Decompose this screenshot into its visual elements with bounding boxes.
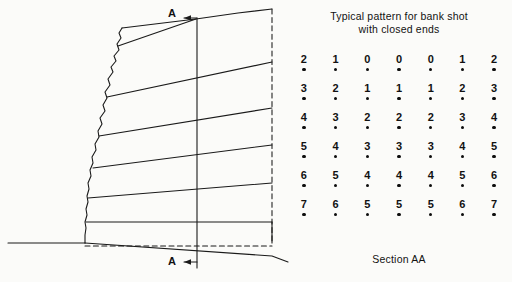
blasthole-dot-icon: [366, 184, 369, 187]
blasthole-cell: 1: [428, 83, 434, 100]
blasthole-cell: 5: [396, 199, 402, 216]
bench-cross-section-drawing: [0, 0, 290, 282]
delay-period-number: 6: [491, 170, 497, 181]
blasthole-cell: 3: [364, 141, 370, 158]
blasthole-cell: 3: [459, 112, 465, 129]
delay-period-number: 4: [301, 112, 307, 123]
blasthole-dot-icon: [461, 184, 464, 187]
blasthole-dot-icon: [492, 126, 495, 129]
blasthole-dot-icon: [302, 126, 305, 129]
delay-period-number: 2: [428, 112, 434, 123]
delay-period-number: 2: [333, 83, 339, 94]
delay-period-number: 4: [491, 112, 497, 123]
blasthole-cell: 2: [396, 112, 402, 129]
delay-period-number: 5: [459, 170, 465, 181]
blasthole-cell: 3: [396, 141, 402, 158]
delay-period-number: 3: [459, 112, 465, 123]
blasthole-dot-icon: [461, 126, 464, 129]
blasthole-dot-icon: [366, 97, 369, 100]
blasthole-dot-icon: [461, 97, 464, 100]
blasthole-dot-icon: [334, 184, 337, 187]
blasthole-dot-icon: [429, 155, 432, 158]
blasthole-cell: 2: [459, 83, 465, 100]
delay-period-number: 7: [301, 199, 307, 210]
blasthole-cell: 5: [428, 199, 434, 216]
delay-period-number: 4: [459, 141, 465, 152]
blasthole-dot-icon: [302, 155, 305, 158]
blasthole-cell: 2: [333, 83, 339, 100]
delay-period-number: 2: [491, 54, 497, 65]
delay-period-number: 2: [459, 83, 465, 94]
fan-hole-line-3: [99, 108, 272, 136]
blasthole-dot-icon: [334, 97, 337, 100]
blasthole-dot-icon: [397, 97, 400, 100]
blasthole-dot-icon: [302, 97, 305, 100]
blasthole-cell: 6: [459, 199, 465, 216]
delay-period-number: 4: [428, 170, 434, 181]
blasthole-cell: 2: [428, 112, 434, 129]
blasthole-dot-icon: [302, 68, 305, 71]
delay-period-number: 0: [396, 54, 402, 65]
blasthole-dot-icon: [366, 126, 369, 129]
pattern-title-line-2: with closed ends: [286, 23, 512, 36]
delay-period-number: 5: [396, 199, 402, 210]
blasthole-dot-icon: [429, 97, 432, 100]
blasthole-dot-icon: [366, 155, 369, 158]
blasthole-cell: 5: [491, 141, 497, 158]
fan-hole-line-2: [107, 62, 272, 97]
delay-period-number: 5: [333, 170, 339, 181]
blasthole-cell: 4: [459, 141, 465, 158]
blasthole-cell: 0: [364, 54, 370, 71]
delay-period-number: 2: [301, 54, 307, 65]
blasthole-cell: 4: [364, 170, 370, 187]
section-aa-panel: Typical pattern for bank shot with close…: [286, 0, 512, 282]
delay-period-number: 2: [396, 112, 402, 123]
blasthole-dot-icon: [397, 155, 400, 158]
delay-period-number: 5: [301, 141, 307, 152]
delay-period-number: 2: [364, 112, 370, 123]
delay-period-number: 0: [364, 54, 370, 65]
fan-hole-line-4: [93, 145, 272, 168]
blasthole-cell: 3: [333, 112, 339, 129]
delay-period-number: 5: [428, 199, 434, 210]
blasthole-cell: 4: [301, 112, 307, 129]
blasthole-dot-icon: [461, 68, 464, 71]
blasthole-dot-icon: [492, 184, 495, 187]
blasthole-dot-icon: [366, 68, 369, 71]
blasthole-cell: 4: [491, 112, 497, 129]
section-arrow-bottom-head: [184, 259, 191, 265]
blasthole-dot-icon: [429, 213, 432, 216]
delay-period-number: 4: [364, 170, 370, 181]
blasthole-dot-icon: [302, 184, 305, 187]
section-label-a-top: A: [168, 8, 176, 19]
blasting-pattern-figure: A A Typical pattern for bank shot with c…: [0, 0, 512, 282]
blasthole-cell: 6: [301, 170, 307, 187]
delay-period-number: 6: [333, 199, 339, 210]
blasthole-cell: 7: [301, 199, 307, 216]
delay-period-number: 4: [333, 141, 339, 152]
delay-period-number: 3: [396, 141, 402, 152]
blasthole-cell: 4: [333, 141, 339, 158]
blasthole-cell: 1: [333, 54, 339, 71]
delay-period-number: 1: [396, 83, 402, 94]
delay-period-number: 3: [428, 141, 434, 152]
blasthole-cell: 1: [364, 83, 370, 100]
blasthole-cell: 1: [459, 54, 465, 71]
pattern-title-line-1: Typical pattern for bank shot: [286, 10, 512, 23]
fan-hole-line-5: [88, 183, 272, 198]
delay-pattern-grid: 2100012321112343222345433345654445676555…: [288, 54, 510, 228]
blasthole-cell: 0: [428, 54, 434, 71]
delay-period-number: 5: [491, 141, 497, 152]
delay-period-number: 3: [491, 83, 497, 94]
blasthole-cell: 4: [396, 170, 402, 187]
delay-period-number: 1: [333, 54, 339, 65]
blasthole-cell: 2: [364, 112, 370, 129]
delay-period-number: 6: [301, 170, 307, 181]
blasthole-cell: 5: [364, 199, 370, 216]
blasthole-dot-icon: [429, 184, 432, 187]
pattern-title: Typical pattern for bank shot with close…: [286, 10, 512, 36]
delay-period-number: 5: [364, 199, 370, 210]
delay-period-number: 3: [333, 112, 339, 123]
blasthole-dot-icon: [397, 68, 400, 71]
delay-period-number: 3: [364, 141, 370, 152]
